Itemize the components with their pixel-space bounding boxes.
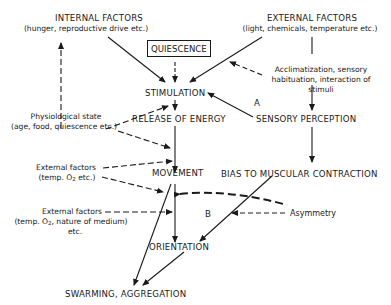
physiological-state-line-2: (age, food, quiescence etc.) (6, 123, 122, 131)
acclimatization-line-3: stimuli (262, 86, 380, 94)
stimulation-node: STIMULATION (145, 89, 205, 98)
external-factors-subtitle: (light, chemicals, temperature etc.) (232, 25, 388, 33)
release-of-energy-node: RELEASE OF ENERGY (132, 115, 226, 124)
external-factors-2-line-3: etc. (60, 228, 90, 236)
sensory-perception-node: SENSORY PERCEPTION (256, 115, 356, 124)
acclimatization-line-2: habituation, interaction of (262, 76, 380, 84)
movement-node: MOVEMENT (152, 169, 203, 178)
external-factors-1-line-1: External factors (30, 164, 102, 172)
asymmetry-label: Asymmetry (290, 210, 336, 218)
orientation-node: ORIENTATION (149, 243, 209, 252)
internal-factors-title: INTERNAL FACTORS (42, 14, 156, 23)
internal-factors-subtitle: (hunger, reproductive drive etc.) (14, 25, 158, 33)
external-factors-1-line-2: (temp. O2 etc.) (34, 174, 100, 183)
external-factors-2-line-2: (temp. O2, nature of medium) (10, 218, 132, 227)
bias-to-muscular-contraction-node: BIAS TO MUSCULAR CONTRACTION (221, 170, 378, 179)
swarming-aggregation-node: SWARMING, AGGREGATION (65, 290, 186, 299)
external-factors-title: EXTERNAL FACTORS (255, 14, 369, 23)
pathway-label-b: B (205, 210, 211, 219)
acclimatization-line-1: Acclimatization, sensory (262, 66, 380, 74)
external-factors-2-line-1: External factors (38, 208, 106, 216)
quiescence-box: QUIESCENCE (147, 40, 211, 57)
pathway-label-a: A (254, 99, 260, 108)
physiological-state-line-1: Physiological state (14, 113, 118, 121)
